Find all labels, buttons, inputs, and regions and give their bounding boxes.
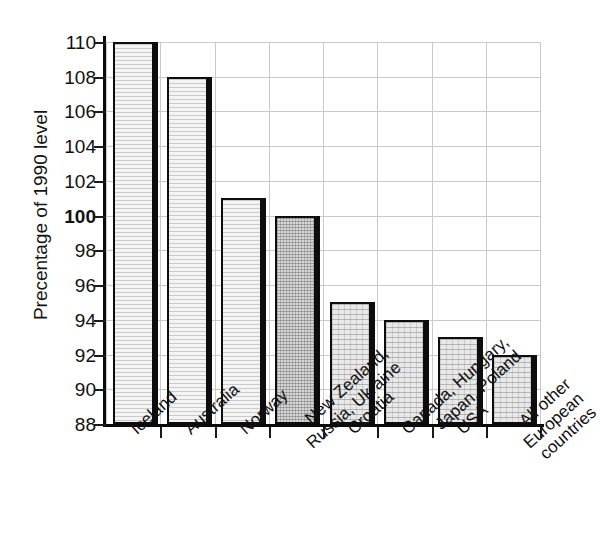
x-axis-tick-mark — [160, 427, 162, 438]
y-axis-tick-mark — [94, 146, 106, 148]
bar[interactable] — [167, 77, 208, 424]
y-axis-tick-mark — [94, 111, 106, 113]
y-axis-tick-label: 98 — [50, 241, 96, 260]
y-axis-tick-mark — [94, 250, 106, 252]
y-axis-tick-label: 108 — [50, 67, 96, 86]
y-axis-tick-mark — [94, 424, 106, 426]
y-axis-tick-mark — [94, 355, 106, 357]
y-axis-tick-label: 100 — [50, 206, 96, 225]
y-axis-tick-label: 94 — [50, 310, 96, 329]
y-axis-tick-label: 92 — [50, 345, 96, 364]
x-axis-tick-mark — [269, 427, 271, 438]
x-axis-tick-mark — [432, 427, 434, 438]
y-axis-tick-mark — [94, 181, 106, 183]
y-axis-tick-label: 96 — [50, 276, 96, 295]
vertical-gridline — [540, 42, 541, 424]
x-axis-tick-mark — [486, 427, 488, 438]
x-axis-tick-mark — [540, 427, 542, 438]
x-axis-category-labels: IcelandAustraliaNorwayNew Zealand,Russia… — [0, 424, 576, 559]
x-axis-tick-mark — [323, 427, 325, 438]
y-axis-tick-mark — [94, 216, 106, 218]
y-axis-tick-mark — [94, 285, 106, 287]
y-axis-tick-mark — [94, 320, 106, 322]
x-axis-tick-mark — [215, 427, 217, 438]
bar[interactable] — [113, 42, 154, 424]
y-axis-tick-label: 110 — [50, 33, 96, 52]
y-axis-tick-label: 90 — [50, 380, 96, 399]
y-axis-tick-mark — [94, 389, 106, 391]
x-axis-tick-mark — [377, 427, 379, 438]
y-axis-tick-label: 106 — [50, 102, 96, 121]
y-axis-tick-mark — [94, 77, 106, 79]
y-axis-tick-label: 104 — [50, 137, 96, 156]
y-axis-tick-mark — [94, 42, 106, 44]
y-axis-tick-label: 102 — [50, 171, 96, 190]
